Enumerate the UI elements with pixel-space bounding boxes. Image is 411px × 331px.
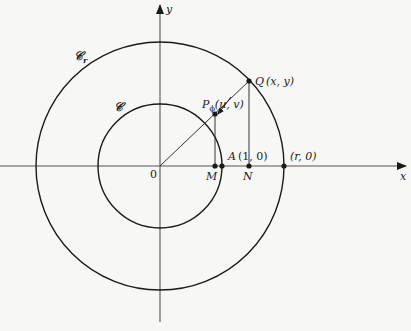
origin-label: 0 [150,168,157,181]
point-m [212,163,217,168]
point-n [246,163,251,168]
point-p-label: Pϕ(u, v) [201,98,244,113]
outer-circle-label: 𝒞r [74,49,88,65]
point-q-label: Q(x, y) [255,75,294,88]
point-n-label: N [242,170,253,183]
inner-circle-label: 𝒞 [114,100,126,114]
point-r [281,163,286,168]
diagram-canvas: y x 0 𝒞r 𝒞 Pϕ(u, v) Q(x, y) A(1, 0) (r, … [0,0,411,331]
point-a [219,163,224,168]
point-a-label: A(1, 0) [227,150,268,163]
point-m-label: M [205,170,218,183]
y-axis-label: y [165,3,173,16]
point-r-label: (r, 0) [290,150,317,163]
x-axis-label: x [400,170,407,183]
point-q [246,78,251,83]
